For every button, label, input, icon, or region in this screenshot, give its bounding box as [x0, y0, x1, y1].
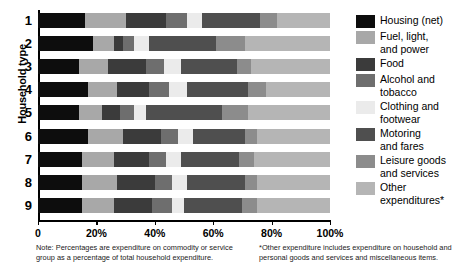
bar-segment [38, 129, 88, 144]
bar-segment [216, 36, 245, 51]
bar-segment [123, 129, 161, 144]
bar-row [38, 175, 330, 190]
bar-segment [178, 129, 193, 144]
bar-segment [237, 59, 252, 74]
bar-segment [114, 152, 149, 167]
legend-item: Food [356, 57, 468, 71]
bar-row [38, 198, 330, 213]
row-label: 8 [16, 175, 32, 190]
bar-segment [172, 175, 187, 190]
bar-segment [161, 129, 179, 144]
bar-segment [184, 198, 242, 213]
bar-segment [260, 13, 278, 28]
stacked-bar-chart: Household type 123456789 020%40%60%80%10… [0, 0, 468, 280]
bar-segment [152, 198, 172, 213]
bar-segment [245, 36, 330, 51]
bar-segment [149, 152, 167, 167]
bar-segment [88, 129, 123, 144]
bar-row [38, 105, 330, 120]
plot-area: 123456789 020%40%60%80%100% [38, 10, 330, 220]
bar-segment [82, 198, 114, 213]
bar-segment [222, 105, 248, 120]
bar-segment [38, 152, 82, 167]
bar-row [38, 82, 330, 97]
bar-segment [117, 82, 149, 97]
row-label: 1 [16, 13, 32, 28]
bar-row [38, 59, 330, 74]
x-tick-label: 100% [317, 227, 344, 239]
bar-segment [149, 36, 216, 51]
bar-segment [85, 13, 126, 28]
bar-row [38, 13, 330, 28]
legend-label: Clothing and footwear [380, 100, 439, 125]
x-tick [272, 220, 273, 225]
row-label: 5 [16, 105, 32, 120]
x-axis-line [38, 220, 330, 222]
legend-swatch [356, 101, 375, 114]
legend-label: Food [380, 57, 404, 70]
bar-segment [181, 152, 239, 167]
bar-segment [251, 59, 330, 74]
bar-segment [239, 152, 254, 167]
bar-segment [114, 36, 123, 51]
bar-segment [79, 105, 102, 120]
bar-segment [82, 152, 114, 167]
bar-segment [126, 13, 167, 28]
bar-segment [248, 105, 330, 120]
legend-label: Motoring and fares [380, 127, 424, 152]
bar-segment [166, 13, 186, 28]
bar-segment [193, 129, 246, 144]
bar-segment [38, 36, 93, 51]
bar-segment [257, 198, 330, 213]
x-tick [213, 220, 214, 225]
bar-row [38, 36, 330, 51]
legend: Housing (net)Fuel, light, and powerFoodA… [356, 14, 468, 208]
x-tick-label: 0 [35, 227, 41, 239]
note-right: *Other expenditure includes expenditure … [259, 243, 464, 262]
legend-swatch [356, 58, 375, 71]
bar-segment [277, 13, 330, 28]
row-label: 2 [16, 36, 32, 51]
legend-swatch [356, 15, 375, 28]
legend-swatch [356, 74, 375, 87]
bar-segment [38, 82, 88, 97]
bar-segment [254, 152, 330, 167]
bar-segment [164, 59, 182, 74]
legend-item: Fuel, light, and power [356, 30, 468, 55]
bar-segment [146, 59, 164, 74]
row-label: 9 [16, 198, 32, 213]
legend-swatch [356, 155, 375, 168]
bar-segment [257, 129, 330, 144]
x-tick [96, 220, 97, 225]
bar-segment [169, 82, 187, 97]
bar-segment [257, 175, 330, 190]
row-label: 4 [16, 82, 32, 97]
legend-swatch [356, 31, 375, 44]
bar-segment [123, 36, 135, 51]
bar-segment [38, 59, 79, 74]
bar-segment [38, 175, 82, 190]
bar-segment [266, 82, 330, 97]
bar-segment [134, 36, 149, 51]
legend-label: Other expenditures* [380, 181, 444, 206]
x-tick [330, 220, 331, 225]
x-tick-label: 40% [144, 227, 165, 239]
bar-segment [187, 82, 248, 97]
bar-segment [187, 175, 245, 190]
bar-segment [155, 175, 173, 190]
row-label: 7 [16, 152, 32, 167]
legend-label: Fuel, light, and power [380, 30, 429, 55]
bar-segment [166, 152, 181, 167]
row-label: 3 [16, 59, 32, 74]
bar-segment [149, 82, 169, 97]
legend-item: Motoring and fares [356, 127, 468, 152]
legend-label: Leisure goods and services [380, 154, 446, 179]
legend-item: Clothing and footwear [356, 100, 468, 125]
legend-item: Other expenditures* [356, 181, 468, 206]
bar-segment [134, 105, 146, 120]
legend-swatch [356, 182, 375, 195]
row-label: 6 [16, 129, 32, 144]
bar-segment [82, 175, 117, 190]
bar-segment [202, 13, 260, 28]
bar-segment [181, 59, 236, 74]
